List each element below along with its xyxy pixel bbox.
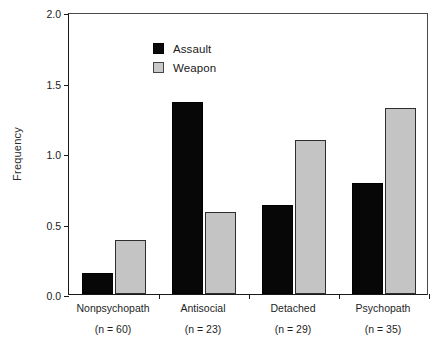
x-tick-mark — [249, 294, 250, 299]
y-tick-label: 0.0 — [31, 290, 61, 302]
category-label-antisocial: Antisocial(n = 23) — [181, 302, 226, 335]
category-sample-size: (n = 35) — [356, 323, 411, 335]
bar-assault-nonpsychopath — [82, 273, 113, 294]
y-tick-mark — [64, 14, 69, 15]
bar-assault-psychopath — [352, 183, 383, 294]
bar-weapon-antisocial — [205, 212, 236, 294]
legend-item-assault: Assault — [153, 39, 216, 58]
x-tick-mark — [339, 294, 340, 299]
bar-chart-figure: Frequency 0.00.51.01.52.0 AssaultWeapon … — [0, 0, 442, 346]
bar-assault-detached — [262, 205, 293, 294]
legend-label: Assault — [173, 43, 211, 55]
y-tick-mark — [64, 85, 69, 86]
x-tick-mark — [159, 294, 160, 299]
y-tick-mark — [64, 226, 69, 227]
legend-item-weapon: Weapon — [153, 58, 216, 77]
y-tick-label: 0.5 — [31, 220, 61, 232]
bar-assault-antisocial — [172, 102, 203, 294]
bar-weapon-detached — [295, 140, 326, 294]
x-tick-mark — [429, 294, 430, 299]
category-label-detached: Detached(n = 29) — [271, 302, 316, 335]
y-tick-label: 2.0 — [31, 8, 61, 20]
y-tick-label: 1.5 — [31, 79, 61, 91]
legend-swatch-assault — [153, 43, 164, 54]
plot-area: 0.00.51.01.52.0 AssaultWeapon — [68, 13, 428, 295]
category-sample-size: (n = 29) — [271, 323, 316, 335]
bar-weapon-nonpsychopath — [115, 240, 146, 294]
category-name: Nonpsychopath — [77, 302, 150, 314]
legend-label: Weapon — [173, 62, 216, 74]
category-label-nonpsychopath: Nonpsychopath(n = 60) — [77, 302, 150, 335]
category-sample-size: (n = 23) — [181, 323, 226, 335]
y-tick-label: 1.0 — [31, 149, 61, 161]
category-name: Psychopath — [356, 302, 411, 314]
category-sample-size: (n = 60) — [77, 323, 150, 335]
y-axis-title: Frequency — [11, 104, 23, 204]
category-name: Antisocial — [181, 302, 226, 314]
y-tick-mark — [64, 155, 69, 156]
chart-legend: AssaultWeapon — [153, 39, 216, 77]
legend-swatch-weapon — [153, 62, 164, 73]
category-label-psychopath: Psychopath(n = 35) — [356, 302, 411, 335]
y-tick-mark — [64, 296, 69, 297]
bar-weapon-psychopath — [385, 108, 416, 294]
category-name: Detached — [271, 302, 316, 314]
